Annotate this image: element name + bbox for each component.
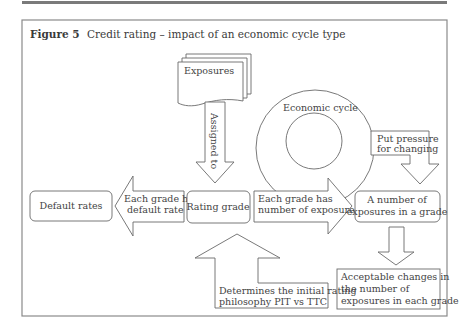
figure-title: Figure 5 Credit rating – impact of an ec…: [30, 28, 345, 40]
diagram-canvas: Figure 5 Credit rating – impact of an ec…: [0, 0, 468, 333]
economic-cycle-label: Economic cycle: [283, 102, 358, 113]
determines-label-1: Determines the initial rating: [219, 285, 357, 296]
number-of-exposures-label-1: A number of: [366, 194, 428, 205]
determines-arrow: Determines the initial rating philosophy…: [195, 234, 357, 308]
acceptable-changes-label-1: Acceptable changes in: [340, 271, 449, 282]
assigned-to-arrow: Assigned to: [196, 102, 234, 183]
default-rates-node: Default rates: [30, 191, 112, 221]
exposures-label: Exposures: [184, 65, 234, 76]
each-grade-exposures-label-1: Each grade has: [258, 193, 333, 204]
default-rates-label: Default rates: [40, 200, 103, 211]
put-pressure-arrow: Put pressure for changing: [371, 131, 439, 184]
determines-label-2: philosophy PIT vs TTC: [219, 296, 327, 307]
rating-grade-label: Rating grade: [186, 201, 249, 212]
inner-cycle-circle: [286, 113, 342, 169]
top-rule: [22, 1, 447, 4]
number-of-exposures-label-2: exposures in a grade: [347, 206, 448, 217]
exposures-document-stack: Exposures: [178, 54, 251, 106]
figure-number: Figure 5: [30, 28, 80, 40]
down-arrow-to-acceptable-changes: [378, 227, 414, 265]
each-grade-exposures-label-2: number of exposures: [258, 204, 360, 215]
each-grade-default-label-2: default rate: [127, 204, 184, 215]
economic-cycle: Economic cycle: [256, 90, 374, 206]
put-pressure-label-2: for changing: [377, 143, 438, 154]
figure-caption: Credit rating – impact of an economic cy…: [87, 28, 346, 40]
rating-grade-node: Rating grade: [186, 191, 250, 223]
acceptable-changes-label-3: exposures in each grade: [341, 295, 459, 306]
assigned-to-label: Assigned to: [209, 112, 220, 169]
number-of-exposures-node: A number of exposures in a grade: [347, 191, 448, 222]
